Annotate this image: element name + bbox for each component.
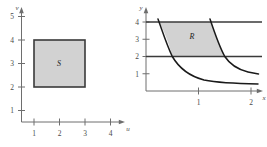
v-tick-label-5: 5 <box>10 12 14 21</box>
u-tick-label-3: 3 <box>83 129 87 138</box>
xy-plane-panel: 1 2 3 4 1 2 y x R <box>134 0 267 147</box>
y-axis-name: y <box>138 4 143 12</box>
u-axis-arrowhead <box>119 120 125 125</box>
y-tick-label-4: 4 <box>135 18 139 27</box>
u-tick-label-2: 2 <box>58 129 62 138</box>
region-r-label: R <box>189 32 195 41</box>
y-axis-arrowhead <box>144 7 149 13</box>
region-s-label: S <box>57 59 61 68</box>
uv-plane-panel: 1 2 3 4 5 1 2 3 4 v u S <box>0 0 134 147</box>
y-tick-label-1: 1 <box>135 70 139 79</box>
v-axis-name: v <box>15 4 19 12</box>
xy-plane-svg: 1 2 3 4 1 2 y x R <box>134 0 267 147</box>
u-tick-label-1: 1 <box>32 129 36 138</box>
v-axis-arrowhead <box>19 7 24 13</box>
y-tick-label-2: 2 <box>135 52 139 61</box>
u-tick-label-4: 4 <box>109 129 113 138</box>
y-tick-label-3: 3 <box>135 35 139 44</box>
v-tick-label-3: 3 <box>10 59 14 68</box>
u-axis-name: u <box>126 125 130 133</box>
x-tick-label-2: 2 <box>249 98 253 107</box>
v-tick-label-2: 2 <box>10 83 14 92</box>
x-axis-name: x <box>261 94 266 102</box>
v-tick-label-4: 4 <box>10 36 14 45</box>
figure-container: 1 2 3 4 5 1 2 3 4 v u S <box>0 0 267 147</box>
x-tick-label-1: 1 <box>197 98 201 107</box>
v-tick-label-1: 1 <box>10 106 14 115</box>
x-axis-arrowhead <box>257 89 263 94</box>
uv-plane-svg: 1 2 3 4 5 1 2 3 4 v u S <box>0 0 134 147</box>
